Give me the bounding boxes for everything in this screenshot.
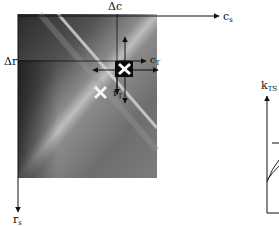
delta-c-label: Δc — [108, 1, 122, 12]
image-patch — [18, 14, 157, 178]
template-column-label: cT — [150, 55, 160, 67]
right-plot — [267, 96, 279, 213]
template-center-marker — [115, 61, 133, 77]
row-axis-label: rs — [13, 214, 22, 226]
template-row-label: rT — [113, 88, 122, 100]
column-axis-label: cs — [223, 11, 233, 24]
kts-label: kTS — [261, 80, 277, 93]
delta-r-label: Δr — [4, 56, 17, 67]
diagram-canvas — [0, 0, 279, 226]
